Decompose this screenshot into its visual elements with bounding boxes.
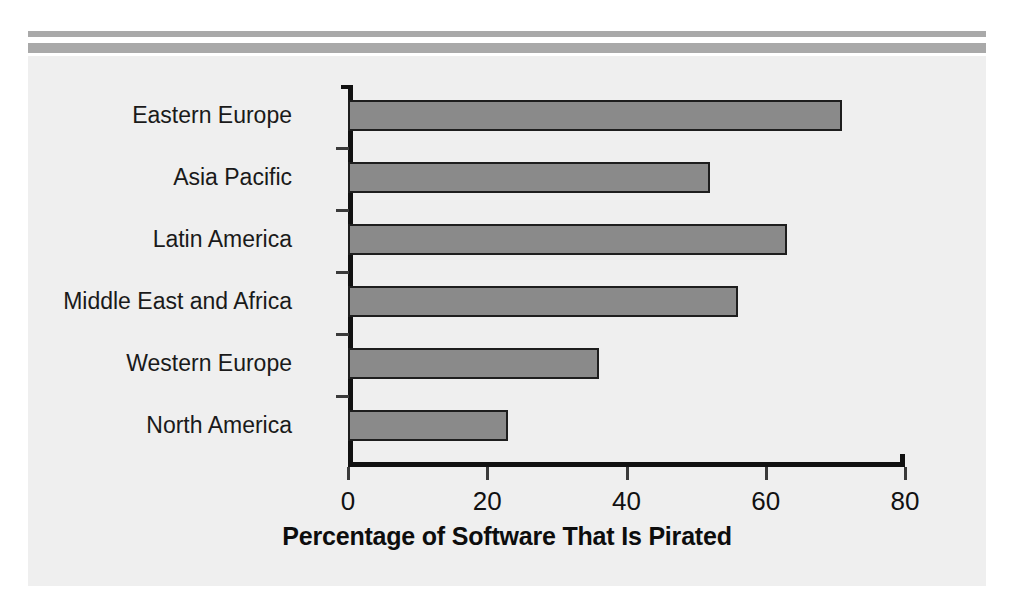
chart-panel: Eastern EuropeAsia PacificLatin AmericaM… <box>28 56 986 586</box>
bar-latin-america <box>348 224 787 255</box>
x-axis-tick <box>486 467 489 480</box>
x-axis-tick <box>626 467 629 480</box>
category-label: Middle East and Africa <box>63 290 292 313</box>
x-axis-title: Percentage of Software That Is Pirated <box>28 522 986 551</box>
category-label: Asia Pacific <box>173 166 292 189</box>
top-rule-thin <box>28 31 986 37</box>
x-axis-tick <box>765 467 768 480</box>
x-axis-tick-label: 0 <box>341 486 355 517</box>
figure-container: Eastern EuropeAsia PacificLatin AmericaM… <box>0 0 1015 594</box>
bar-north-america <box>348 410 508 441</box>
y-axis-tick <box>336 395 349 398</box>
x-axis-tick-label: 80 <box>891 486 920 517</box>
x-axis-tick-label: 40 <box>612 486 641 517</box>
y-axis-top-cap <box>341 85 353 89</box>
y-axis-line <box>348 85 353 466</box>
x-axis-end-cap <box>900 454 905 467</box>
bar-western-europe <box>348 348 599 379</box>
x-axis-tick <box>347 467 350 480</box>
bar-asia-pacific <box>348 162 710 193</box>
category-label: Western Europe <box>126 352 292 375</box>
plot-area: Eastern EuropeAsia PacificLatin AmericaM… <box>28 56 986 586</box>
x-axis-tick-label: 20 <box>473 486 502 517</box>
y-axis-tick <box>336 271 349 274</box>
top-rule-thick <box>28 43 986 53</box>
category-label: Latin America <box>153 228 292 251</box>
bar-middle-east-and-africa <box>348 286 738 317</box>
y-axis-tick <box>336 209 349 212</box>
x-axis-tick-label: 60 <box>751 486 780 517</box>
y-axis-tick <box>336 147 349 150</box>
x-axis-tick <box>904 467 907 480</box>
bar-eastern-europe <box>348 100 842 131</box>
y-axis-tick <box>336 333 349 336</box>
category-label: North America <box>146 414 292 437</box>
category-label: Eastern Europe <box>132 104 292 127</box>
